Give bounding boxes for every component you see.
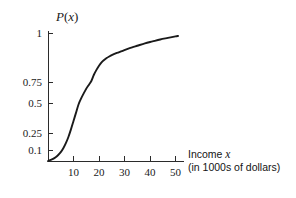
probability-curve: [48, 36, 178, 161]
x-axis-variable: x: [225, 148, 230, 160]
x-tick-label: 20: [94, 167, 105, 178]
y-tick-label: 0.1: [28, 145, 42, 156]
y-axis-function-name: P: [56, 9, 64, 24]
x-axis-title-word: Income: [188, 148, 225, 160]
y-axis-title: P(x): [56, 10, 78, 23]
y-tick-label: 0.25: [23, 128, 42, 139]
y-tick-marks: [48, 33, 53, 150]
x-axis-title-units: (in 1000s of dollars): [188, 161, 280, 174]
chart-figure: P(x) Income x(in 1000s of dollars) 0.10.…: [0, 0, 296, 198]
x-tick-label: 10: [68, 167, 79, 178]
x-tick-marks: [74, 156, 176, 161]
y-tick-label: 1: [37, 28, 43, 39]
x-axis-title-main: Income x: [188, 147, 280, 161]
y-tick-label: 0.75: [23, 77, 42, 88]
y-tick-label: 0.5: [28, 98, 42, 109]
x-tick-label: 40: [145, 167, 156, 178]
data-series-group: [48, 36, 178, 161]
y-axis-variable: x: [68, 9, 74, 24]
x-axis-title: Income x(in 1000s of dollars): [188, 147, 280, 175]
axes-group: [48, 31, 184, 161]
x-tick-label: 30: [119, 167, 130, 178]
x-tick-label: 50: [170, 167, 181, 178]
